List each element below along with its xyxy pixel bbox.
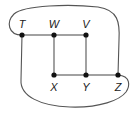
node-Z <box>115 72 120 77</box>
node-T <box>19 32 24 37</box>
graph-diagram: TWVXYZ <box>0 0 137 113</box>
node-label-Z: Z <box>114 81 123 93</box>
node-label-X: X <box>49 81 58 93</box>
labels-group: TWVXYZ <box>19 18 123 93</box>
node-X <box>51 72 56 77</box>
node-W <box>51 32 56 37</box>
nodes-group <box>19 32 120 77</box>
node-label-W: W <box>49 18 61 30</box>
node-V <box>83 32 88 37</box>
edges-group <box>9 5 128 107</box>
node-label-T: T <box>19 18 27 30</box>
node-label-Y: Y <box>82 81 90 93</box>
node-Y <box>83 72 88 77</box>
node-label-V: V <box>82 18 91 30</box>
edge-T-Z-curved-bottom <box>21 35 129 107</box>
edge-T-Z-curved-top <box>9 5 119 75</box>
